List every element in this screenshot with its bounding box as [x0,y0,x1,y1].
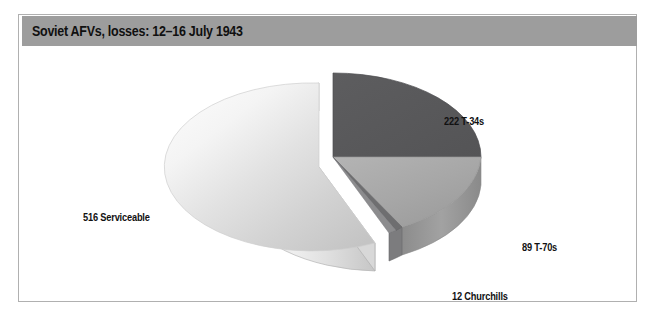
page-title: Soviet AFVs, losses: 12–16 July 1943 [32,23,243,39]
pie-label-t70: 89 T-70s [522,241,557,253]
pie-label-t34: 222 T-34s [444,115,484,127]
chart-title-bar: Soviet AFVs, losses: 12–16 July 1943 [22,16,637,46]
pie-chart-svg [19,47,636,301]
pie-chart-plot-area: 222 T-34s 89 T-70s 12 Churchills 11 Assa… [19,47,636,301]
chart-figure: Soviet AFVs, losses: 12–16 July 1943 [0,0,656,322]
pie-label-serviceable: 516 Serviceable [83,211,150,223]
pie-label-churchills: 12 Churchills [452,290,508,301]
